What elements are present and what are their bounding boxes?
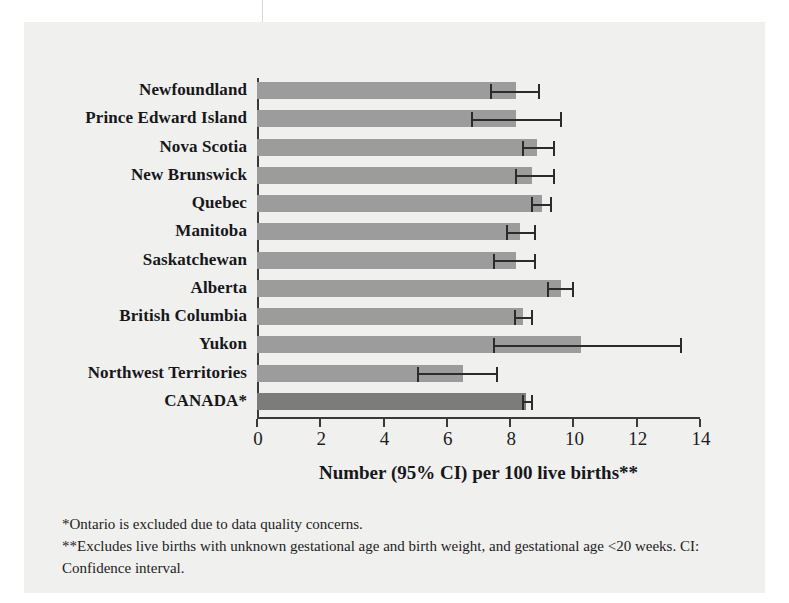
ci-cap-lower: [522, 141, 524, 156]
ci-cap-upper: [553, 141, 555, 156]
x-tick-mark: [636, 419, 638, 427]
x-tick-mark: [446, 419, 448, 427]
category-label: Quebec: [192, 193, 257, 213]
confidence-interval-line: [523, 147, 555, 149]
category-label: Yukon: [199, 334, 257, 354]
x-tick-mark: [383, 419, 385, 427]
ci-cap-lower: [515, 169, 517, 184]
confidence-interval-line: [515, 317, 532, 319]
bar: [257, 223, 520, 240]
footnotes: *Ontario is excluded due to data quality…: [62, 514, 732, 580]
confidence-interval-line: [418, 373, 497, 375]
chart-page: 02468101214 NewfoundlandPrince Edward Is…: [0, 0, 789, 603]
ci-cap-upper: [496, 367, 498, 382]
confidence-interval-line: [472, 119, 561, 121]
x-axis-line: [257, 417, 700, 419]
category-label: Northwest Territories: [88, 363, 257, 383]
x-tick-mark: [256, 419, 258, 427]
confidence-interval-line: [491, 91, 538, 93]
category-label: Manitoba: [175, 221, 257, 241]
x-tick-mark: [509, 419, 511, 427]
ci-cap-lower: [514, 310, 516, 325]
bar-row: Northwest Territories: [257, 361, 700, 389]
ci-cap-upper: [572, 282, 574, 297]
bar: [257, 393, 526, 410]
bar-row: Newfoundland: [257, 78, 700, 106]
x-tick-label: 2: [301, 428, 341, 450]
ci-cap-upper: [680, 338, 682, 353]
bar-row: New Brunswick: [257, 163, 700, 191]
plot-area: 02468101214 NewfoundlandPrince Edward Is…: [257, 78, 700, 417]
bar: [257, 252, 516, 269]
category-label: Nova Scotia: [159, 137, 257, 157]
x-tick-mark: [319, 419, 321, 427]
bar-row: Prince Edward Island: [257, 106, 700, 134]
bar: [257, 308, 523, 325]
category-label: CANADA*: [164, 391, 257, 411]
x-tick-label: 6: [428, 428, 468, 450]
bar-row: Nova Scotia: [257, 135, 700, 163]
bar-row: Saskatchewan: [257, 248, 700, 276]
x-tick-mark: [699, 419, 701, 427]
chart-panel: 02468101214 NewfoundlandPrince Edward Is…: [24, 22, 765, 593]
category-label: New Brunswick: [131, 165, 257, 185]
category-label: Prince Edward Island: [85, 108, 257, 128]
bar: [257, 280, 561, 297]
bar: [257, 167, 532, 184]
ci-cap-lower: [493, 254, 495, 269]
category-label: British Columbia: [119, 306, 257, 326]
ci-cap-upper: [538, 84, 540, 99]
x-tick-label: 4: [365, 428, 405, 450]
x-tick-label: 10: [554, 428, 594, 450]
ci-cap-upper: [553, 169, 555, 184]
ci-cap-lower: [490, 84, 492, 99]
confidence-interval-line: [494, 345, 681, 347]
ci-cap-upper: [531, 395, 533, 410]
category-label: Saskatchewan: [143, 250, 257, 270]
scan-artifact-line: [262, 0, 263, 24]
ci-cap-upper: [550, 197, 552, 212]
confidence-interval-line: [516, 175, 554, 177]
category-label: Alberta: [191, 278, 257, 298]
x-tick-label: 14: [681, 428, 721, 450]
bar-row: Manitoba: [257, 219, 700, 247]
x-axis-title: Number (95% CI) per 100 live births**: [257, 462, 700, 484]
confidence-interval-line: [507, 232, 535, 234]
x-tick-label: 12: [618, 428, 658, 450]
category-label: Newfoundland: [139, 80, 257, 100]
bar: [257, 195, 542, 212]
ci-cap-lower: [493, 338, 495, 353]
ci-cap-upper: [534, 254, 536, 269]
ci-cap-upper: [560, 112, 562, 127]
x-tick-label: 8: [491, 428, 531, 450]
confidence-interval-line: [494, 260, 535, 262]
ci-cap-upper: [534, 225, 536, 240]
confidence-interval-line: [532, 204, 551, 206]
ci-cap-lower: [471, 112, 473, 127]
x-tick-mark: [572, 419, 574, 427]
bar-row: Quebec: [257, 191, 700, 219]
ci-cap-lower: [531, 197, 533, 212]
bar-row: Yukon: [257, 332, 700, 360]
ci-cap-lower: [547, 282, 549, 297]
footnote-exclusions: **Excludes live births with unknown gest…: [62, 536, 732, 579]
footnote-ontario: *Ontario is excluded due to data quality…: [62, 514, 732, 535]
bar: [257, 82, 516, 99]
ci-cap-lower: [506, 225, 508, 240]
ci-cap-lower: [417, 367, 419, 382]
confidence-interval-line: [548, 288, 573, 290]
bar: [257, 139, 537, 156]
x-tick-label: 0: [238, 428, 278, 450]
bar-row: CANADA*: [257, 389, 700, 417]
bar-row: British Columbia: [257, 304, 700, 332]
ci-cap-upper: [531, 310, 533, 325]
ci-cap-lower: [522, 395, 524, 410]
bar-row: Alberta: [257, 276, 700, 304]
